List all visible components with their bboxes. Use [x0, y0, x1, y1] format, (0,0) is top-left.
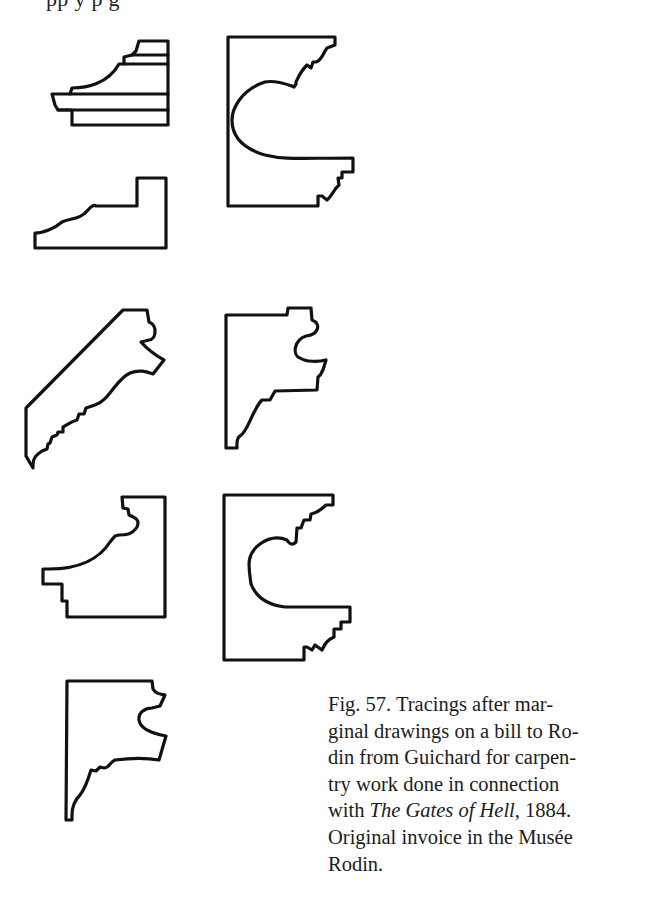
- profile-3-cove: [228, 37, 353, 206]
- caption-line-7: Rodin.: [328, 851, 648, 878]
- caption-line-4: try work done in connection: [328, 771, 648, 798]
- artwork-title: The Gates of Hell: [370, 799, 515, 821]
- caption-line-3: din from Guichard for carpen-: [328, 744, 648, 771]
- profile-5-bracket: [226, 308, 326, 448]
- figure-caption: Fig. 57. Tracings after mar- ginal drawi…: [328, 691, 648, 877]
- profile-8-bracket: [66, 681, 166, 820]
- caption-line-1: Fig. 57. Tracings after mar-: [328, 691, 648, 718]
- caption-line-5-pre: with: [328, 799, 370, 821]
- profile-4-diagonal-bracket: [26, 310, 164, 468]
- profile-2-base: [35, 178, 166, 248]
- profile-6-cove-step: [43, 497, 165, 617]
- caption-line-5-post: , 1884.: [515, 799, 571, 821]
- caption-line-2: ginal drawings on a bill to Ro-: [328, 718, 648, 745]
- caption-line-5: with The Gates of Hell, 1884.: [328, 797, 648, 824]
- caption-line-6: Original invoice in the Musée: [328, 824, 648, 851]
- profile-7-cove: [224, 495, 350, 660]
- profile-1-cornice: [52, 41, 168, 125]
